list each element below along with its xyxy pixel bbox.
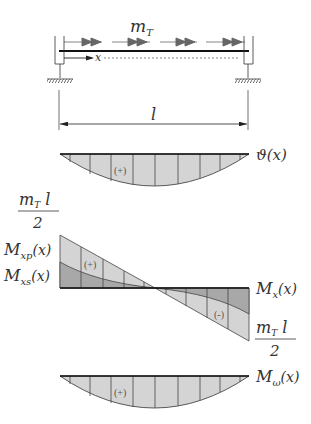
- sign-positive: (+): [114, 387, 126, 399]
- primary-moment-label: Mxp(x): [3, 240, 51, 261]
- distributed-torque-arrows: [64, 38, 245, 46]
- bimoment-diagram: (+) Mω(x): [60, 367, 299, 408]
- x-axis: x: [64, 51, 238, 64]
- svg-text:2: 2: [32, 214, 43, 232]
- svg-text:mT l: mT l: [19, 190, 50, 210]
- top-value-label: mT l 2: [18, 190, 59, 232]
- twist-angle-label: ϑ(x): [256, 146, 287, 164]
- bottom-value-label: mT l 2: [255, 318, 296, 360]
- torsion-moment-diagram: (+) (-) mT l 2 Mxp(x) Mxs(x) Mx(x) mT l: [3, 190, 297, 360]
- left-fork-support: [47, 36, 73, 83]
- svg-text:x: x: [95, 51, 102, 64]
- torsion-beam-diagram: mT x: [0, 0, 311, 424]
- bimoment-label: Mω(x): [255, 367, 299, 388]
- torsion-moment-label: Mx(x): [255, 279, 297, 300]
- span-label: l: [151, 105, 156, 124]
- svg-text:2: 2: [269, 342, 280, 360]
- svg-text:mT l: mT l: [256, 318, 287, 338]
- load-label: mT: [130, 16, 154, 38]
- sign-positive: (+): [84, 259, 96, 271]
- sign-positive: (+): [114, 165, 126, 177]
- secondary-moment-label: Mxs(x): [3, 266, 50, 287]
- twist-angle-diagram: (+) ϑ(x): [60, 146, 287, 186]
- beam-schematic: mT x: [47, 16, 261, 130]
- span-dimension: l: [59, 90, 248, 130]
- sign-negative: (-): [214, 309, 224, 321]
